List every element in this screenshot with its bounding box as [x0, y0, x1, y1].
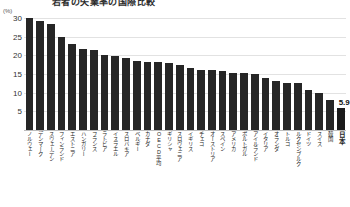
- bar-slot: [153, 18, 164, 130]
- bar-ハンガリー[interactable]: [79, 49, 87, 130]
- x-axis-label-ルクセンブルク: ルクセンブルク: [295, 131, 301, 207]
- x-axis-label-アメリカ: アメリカ: [230, 131, 236, 207]
- bar-value-label-日本: 5.9: [339, 98, 350, 107]
- x-axis-label-スペイン: スペイン: [220, 131, 226, 207]
- y-axis-tick-30: 30: [2, 14, 22, 23]
- x-label-slot: フィンランド: [56, 131, 67, 207]
- bar-slot: [282, 18, 293, 130]
- bar-ポルトガル[interactable]: [240, 73, 248, 130]
- x-label-slot: スイス: [314, 131, 325, 207]
- x-label-slot: アメリカ: [228, 131, 239, 207]
- x-label-slot: アイルランド: [249, 131, 260, 207]
- bar-slot: [35, 18, 46, 130]
- x-label-slot: ギリシャ: [164, 131, 175, 207]
- bar-slot: [185, 18, 196, 130]
- y-axis: 30252015105: [0, 18, 22, 130]
- bar-エストニア[interactable]: [68, 44, 76, 130]
- x-axis-labels: ノルウェーデンマークスウェーデンフィンランドエストニアハンガリーフランスラトビア…: [24, 131, 346, 207]
- bar-ラトビア[interactable]: [101, 55, 109, 130]
- y-axis-tick-15: 15: [2, 70, 22, 79]
- x-label-slot: オランダ: [271, 131, 282, 207]
- x-label-slot: ドイツ: [303, 131, 314, 207]
- bar-slot: [78, 18, 89, 130]
- bar-ベルギー[interactable]: [133, 61, 141, 130]
- bar-フランス[interactable]: [90, 50, 98, 130]
- x-axis-label-エストニア: エストニア: [69, 131, 75, 207]
- bar-スロヴェニア[interactable]: [176, 65, 184, 130]
- plot-area: 5.9: [24, 18, 346, 130]
- bar-slot: [249, 18, 260, 130]
- x-axis-label-ギリシャ: ギリシャ: [166, 131, 172, 207]
- x-label-slot: スウェーデン: [45, 131, 56, 207]
- bar-イギリス[interactable]: [187, 68, 195, 130]
- bar-slot: [292, 18, 303, 130]
- bar-スペイン[interactable]: [219, 71, 227, 130]
- bar-slot: [56, 18, 67, 130]
- x-axis-label-ハンガリー: ハンガリー: [80, 131, 86, 207]
- bar-slot: [217, 18, 228, 130]
- x-axis-label-アイルランド: アイルランド: [252, 131, 258, 207]
- x-label-slot: ハンガリー: [78, 131, 89, 207]
- x-axis-label-フィンランド: フィンランド: [59, 131, 65, 207]
- bar-フィンランド[interactable]: [58, 37, 66, 130]
- x-axis-label-日本: 日本: [337, 131, 344, 207]
- bar-ルクセンブルク[interactable]: [294, 83, 302, 130]
- bar-オランダ[interactable]: [272, 81, 280, 130]
- bar-slot: [99, 18, 110, 130]
- bar-ノルウェー[interactable]: [26, 18, 34, 130]
- x-axis-label-スロバキア: スロバキア: [123, 131, 129, 207]
- bar-イスラエル[interactable]: [111, 56, 119, 130]
- x-axis-label-イタリア: イタリア: [263, 131, 269, 207]
- x-axis-label-スイス: スイス: [316, 131, 322, 207]
- bar-スウェーデン[interactable]: [47, 24, 55, 130]
- bar-slot: [174, 18, 185, 130]
- bar-スロバキア[interactable]: [122, 58, 130, 130]
- bar-韓国[interactable]: [326, 100, 334, 130]
- x-axis-label-トルコ: トルコ: [284, 131, 290, 207]
- bar-OECD平均[interactable]: [154, 62, 162, 130]
- bar-slot: [142, 18, 153, 130]
- bar-slot: [314, 18, 325, 130]
- x-label-slot: イスラエル: [110, 131, 121, 207]
- bar-slot: [131, 18, 142, 130]
- x-axis-label-オーストリア: オーストリア: [209, 131, 215, 207]
- x-label-slot: ルクセンブルク: [292, 131, 303, 207]
- bar-オーストリア[interactable]: [208, 70, 216, 130]
- x-label-slot: カナダ: [142, 131, 153, 207]
- bar-slot: [303, 18, 314, 130]
- bar-チェコ[interactable]: [197, 70, 205, 130]
- bar-slot: [24, 18, 35, 130]
- bar-カナダ[interactable]: [144, 62, 152, 130]
- bar-slot: [228, 18, 239, 130]
- x-axis-label-ノルウェー: ノルウェー: [27, 131, 33, 207]
- x-label-slot: デンマーク: [35, 131, 46, 207]
- bar-slot: [206, 18, 217, 130]
- x-label-slot: フランス: [88, 131, 99, 207]
- x-axis-label-チェコ: チェコ: [198, 131, 204, 207]
- bar-slot: [88, 18, 99, 130]
- bar-ドイツ[interactable]: [305, 90, 313, 130]
- bar-slot: [196, 18, 207, 130]
- x-axis-label-フランス: フランス: [91, 131, 97, 207]
- bar-デンマーク[interactable]: [36, 21, 44, 130]
- x-label-slot: イギリス: [185, 131, 196, 207]
- bar-slot: [325, 18, 336, 130]
- bar-slot: [110, 18, 121, 130]
- x-axis-label-イスラエル: イスラエル: [112, 131, 118, 207]
- bar-日本[interactable]: [337, 108, 345, 130]
- bar-イタリア[interactable]: [262, 78, 270, 130]
- bar-slot: [260, 18, 271, 130]
- x-label-slot: ベルギー: [131, 131, 142, 207]
- x-axis-label-ベルギー: ベルギー: [134, 131, 140, 207]
- bar-スイス[interactable]: [315, 93, 323, 130]
- bar-slot: [271, 18, 282, 130]
- bar-アメリカ[interactable]: [229, 73, 237, 130]
- bar-トルコ[interactable]: [283, 83, 291, 130]
- x-axis-label-オランダ: オランダ: [273, 131, 279, 207]
- x-axis-label-OECD平均: OECD平均: [155, 131, 161, 207]
- y-axis-tick-10: 10: [2, 89, 22, 98]
- bar-ギリシャ[interactable]: [165, 63, 173, 130]
- bar-アイルランド[interactable]: [251, 74, 259, 130]
- x-axis-label-ラトビア: ラトビア: [102, 131, 108, 207]
